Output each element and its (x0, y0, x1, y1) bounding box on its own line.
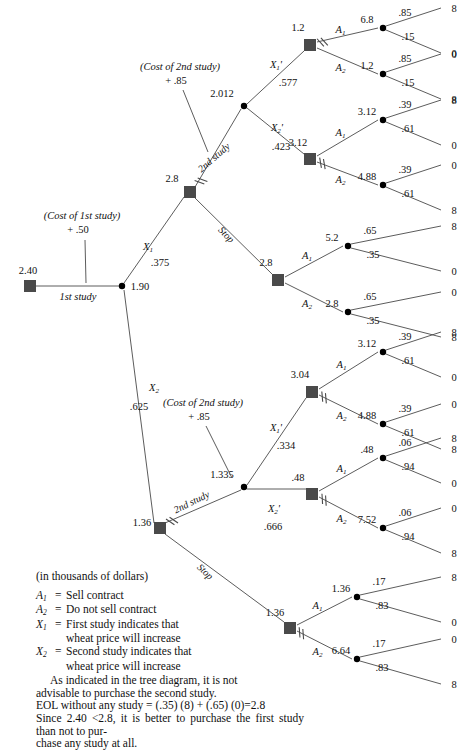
decision-node-upper[interactable] (184, 186, 196, 198)
outcome-edge-top (386, 8, 441, 26)
outcome-edge-top (386, 404, 441, 422)
ev-label-g10: 7.52 (358, 514, 376, 525)
prob-top-g2: .85 (398, 53, 411, 64)
act-edge-A1 (317, 28, 378, 42)
prob-bot-g1: .15 (401, 31, 414, 42)
chance-node-g8[interactable] (380, 421, 386, 427)
ev-label-g5: 5.2 (325, 232, 338, 243)
payoff-bot-g3: 0 (451, 140, 456, 151)
decision-node-lower-x2p[interactable] (306, 488, 318, 500)
act-label-A1: A1 (336, 359, 347, 372)
prob-x1-prime-upper: .577 (279, 77, 297, 88)
chance-node-g5[interactable] (345, 243, 351, 249)
chance-node-g12[interactable] (354, 656, 360, 662)
label-x2-prime-lower: X2' (267, 503, 281, 516)
chance-node-g3[interactable] (380, 117, 386, 123)
prob-top-g7: .39 (398, 331, 411, 342)
ev-label-g6: 2.8 (325, 298, 338, 309)
payoff-bot-g11: 0 (451, 617, 456, 628)
prob-bot-g3: .61 (401, 123, 414, 134)
note-1st-study-line1: (Cost of 1st study) (44, 210, 121, 222)
act-label-A2: A2 (336, 513, 347, 526)
chance-node-g7[interactable] (380, 349, 386, 355)
payoff-bot-g8: 8 (451, 444, 456, 455)
pruned-branch-mark (166, 515, 178, 527)
outcome-edge-top (386, 438, 441, 456)
value-u-x2p: 3.12 (289, 137, 307, 148)
prob-bot-g4: .61 (401, 188, 414, 199)
ev-label-g9: .48 (360, 444, 373, 455)
prob-top-g5: .65 (363, 225, 376, 236)
prob-bot-g10: .94 (401, 531, 415, 542)
chance-node-g4[interactable] (380, 182, 386, 188)
value-lower-decision: 1.36 (133, 517, 151, 528)
pruned-branch-mark (317, 37, 328, 48)
payoff-bot-g12: 8 (451, 679, 456, 690)
outcome-edge-top (386, 165, 441, 183)
payoff-top-g1: 8 (451, 3, 456, 14)
ev-label-g1: 6.8 (360, 14, 373, 25)
payoff-bot-g10: 8 (451, 548, 456, 559)
label-1st-study: 1st study (59, 291, 96, 302)
prob-x1-prime-lower: .334 (277, 440, 296, 451)
legend-definition-row: X2=Second study indicates that (36, 645, 336, 660)
prob-x2-prime-lower: .666 (264, 521, 282, 532)
legend-symbol: A1 (36, 589, 55, 604)
chance-node-upper-2nd-study[interactable] (241, 103, 247, 109)
outcome-edge-bottom (360, 599, 441, 622)
chance-node-g10[interactable] (380, 525, 386, 531)
chance-node-lower-2nd-study[interactable] (241, 484, 247, 490)
legend-equals: = (55, 645, 66, 658)
payoff-top-g8: 0 (451, 399, 456, 410)
payoff-top-g11: 8 (451, 572, 456, 583)
legend-note-line: EOL without any study = (.35) (8) + (.65… (36, 699, 336, 712)
root-decision-node[interactable] (24, 280, 36, 292)
prob-x2-prime-upper: .423 (272, 141, 290, 152)
chance-node-g1[interactable] (380, 25, 386, 31)
decision-node-lower-x1p[interactable] (306, 386, 318, 398)
payoff-bot-g5: 0 (451, 266, 456, 277)
prob-bot-g6: .35 (366, 315, 379, 326)
legend-definition-row: A1=Sell contract (36, 589, 336, 604)
label-x1-prime-upper: X1' (269, 59, 283, 72)
outcome-edge-top (386, 54, 441, 72)
label-x2-prime-upper: X2' (270, 122, 284, 135)
chance-node-g2[interactable] (380, 71, 386, 77)
prob-x2: .625 (130, 401, 148, 412)
legend-note-line: As indicated in the tree diagram, it is … (36, 674, 336, 687)
payoff-top-g9: 8 (451, 433, 456, 444)
payoff-top-g3: 8 (451, 95, 456, 106)
act-label-A2: A2 (335, 174, 346, 187)
act-edge-A1 (285, 246, 343, 277)
note-2nd-study-upper-line1: (Cost of 2nd study) (140, 61, 221, 73)
act-edge-A1 (319, 352, 378, 389)
legend-definition-row: A2=Do not sell contract (36, 603, 336, 618)
prob-bot-g11: .83 (375, 600, 388, 611)
decision-node-upper-x2p[interactable] (304, 153, 316, 165)
outcome-edge-bottom (360, 661, 441, 684)
outcome-edge-top (386, 332, 441, 350)
decision-node-upper-stop[interactable] (272, 274, 284, 286)
chance-node-g9[interactable] (380, 455, 386, 461)
legend-symbol: X1 (36, 618, 55, 633)
ev-label-g3: 3.12 (358, 106, 376, 117)
payoff-bot-g4: 8 (451, 205, 456, 216)
legend-definition-row: X1=First study indicates that (36, 618, 336, 633)
value-l-x2p: .48 (291, 472, 304, 483)
value-upper-decision: 2.8 (165, 173, 178, 184)
ev-label-g7: 3.12 (358, 338, 376, 349)
chance-node-first-study[interactable] (119, 283, 125, 289)
chance-node-g6[interactable] (345, 309, 351, 315)
decision-node-upper-x1p[interactable] (304, 39, 316, 51)
label-x2: X2 (148, 382, 159, 395)
payoff-top-g5: 8 (451, 221, 456, 232)
act-label-A1: A1 (335, 24, 346, 37)
decision-node-lower[interactable] (154, 522, 166, 534)
act-label-A1: A1 (301, 250, 312, 263)
payoff-top-g10: 0 (451, 503, 456, 514)
chance-node-g11[interactable] (354, 594, 360, 600)
legend-equals: = (55, 618, 66, 631)
prob-top-g8: .39 (398, 403, 411, 414)
outcome-edge-top (386, 508, 441, 526)
legend-note-line: Since 2.40 <2.8, it is better to purchas… (36, 712, 304, 737)
